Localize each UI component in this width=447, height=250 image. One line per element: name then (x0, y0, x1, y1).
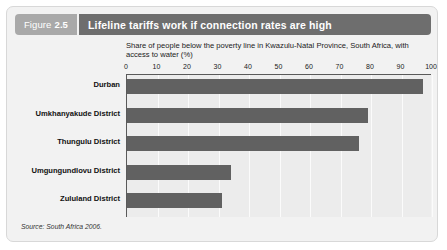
x-tick-label: 100 (425, 63, 437, 70)
x-tick-label: 30 (214, 63, 222, 70)
x-tick-label: 50 (275, 63, 283, 70)
source-note: Source: South Africa 2006. (21, 223, 102, 230)
x-tick-label: 40 (244, 63, 252, 70)
category-label: Umgungundlovu District (15, 166, 120, 175)
chart-axis-title: Share of people below the poverty line i… (126, 41, 426, 59)
category-label: Thungulu District (15, 137, 120, 146)
x-tick-label: 60 (305, 63, 313, 70)
x-tick-label: 20 (183, 63, 191, 70)
plot-outer: 0102030405060708090100 (126, 63, 431, 217)
x-tick-label: 0 (124, 63, 128, 70)
figure-card: Figure 2.5 Lifeline tariffs work if conn… (6, 6, 438, 242)
x-tick-label: 10 (153, 63, 161, 70)
bar (127, 108, 368, 123)
category-label: Durban (15, 80, 120, 89)
bar (127, 165, 231, 180)
figure-number: 2.5 (55, 19, 69, 30)
plot-region (126, 74, 431, 217)
x-tick-label: 80 (366, 63, 374, 70)
chart-area: Share of people below the poverty line i… (15, 41, 431, 217)
figure-label-word: Figure (24, 19, 52, 30)
figure-title: Lifeline tariffs work if connection rate… (77, 14, 431, 35)
category-label: Zululand District (15, 194, 120, 203)
figure-header: Figure 2.5 Lifeline tariffs work if conn… (15, 14, 431, 35)
bar-series (127, 75, 431, 217)
bar (127, 79, 423, 94)
x-tick-label: 90 (397, 63, 405, 70)
figure-number-tab: Figure 2.5 (15, 14, 77, 35)
bar (127, 193, 222, 208)
x-axis-ticks: 0102030405060708090100 (126, 63, 431, 74)
gridline (432, 75, 433, 217)
bar (127, 136, 359, 151)
category-labels: DurbanUmkhanyakude DistrictThungulu Dist… (15, 74, 120, 217)
category-label: Umkhanyakude District (15, 109, 120, 118)
x-tick-label: 70 (336, 63, 344, 70)
